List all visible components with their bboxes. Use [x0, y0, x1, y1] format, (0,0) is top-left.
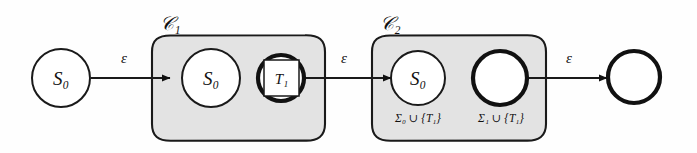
edge-label-epsilon-1: ε: [121, 50, 127, 66]
node-start-s0-label: S₀: [53, 68, 69, 89]
group-label-c1: 𝒞₁: [160, 13, 181, 34]
node-c2-s0-label: S₀: [410, 68, 426, 89]
edge-label-epsilon-3: ε: [566, 50, 572, 66]
edge-label-epsilon-2: ε: [341, 50, 347, 66]
node-c1-t1-label: T₁: [275, 71, 289, 87]
node-final-blank[interactable]: [608, 51, 660, 103]
node-final-blank-shape: [608, 51, 660, 103]
group-label-c2: 𝒞₂: [380, 13, 401, 34]
alphabet-label-sigma1: Σ₁ ∪ {T₁}: [477, 112, 524, 124]
diagram-canvas: 𝒞₁ 𝒞₂ ε ε ε S₀ S₀: [0, 0, 697, 153]
node-c1-s0[interactable]: S₀: [182, 49, 240, 107]
alphabet-label-sigma0: Σ₀ ∪ {T₁}: [394, 112, 441, 124]
node-c2-blank-shape: [473, 51, 527, 105]
node-c1-t1[interactable]: T₁: [258, 55, 304, 101]
node-c2-s0[interactable]: S₀: [391, 51, 445, 105]
node-c1-s0-label: S₀: [203, 68, 219, 89]
node-c2-blank[interactable]: [473, 51, 527, 105]
diagram-svg: 𝒞₁ 𝒞₂ ε ε ε S₀ S₀: [0, 0, 697, 153]
node-start-s0[interactable]: S₀: [32, 49, 90, 107]
